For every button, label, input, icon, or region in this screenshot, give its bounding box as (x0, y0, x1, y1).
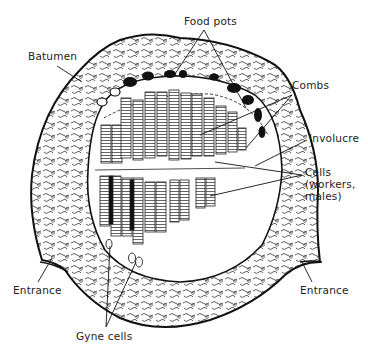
label-combs: Combs (292, 79, 329, 91)
label-cells-line3: males) (305, 190, 342, 202)
nest-diagram: Food pots Batumen Combs Involucre Cells … (0, 0, 368, 354)
label-cells-line1: Cells (305, 166, 331, 178)
label-entrance-right: Entrance (300, 284, 349, 296)
label-batumen: Batumen (28, 50, 77, 62)
label-food-pots: Food pots (184, 15, 237, 27)
label-entrance-left: Entrance (13, 284, 62, 296)
label-involucre: Involucre (309, 132, 359, 144)
label-gyne-cells: Gyne cells (76, 330, 132, 342)
label-cells-line2: (workers, (305, 178, 356, 190)
